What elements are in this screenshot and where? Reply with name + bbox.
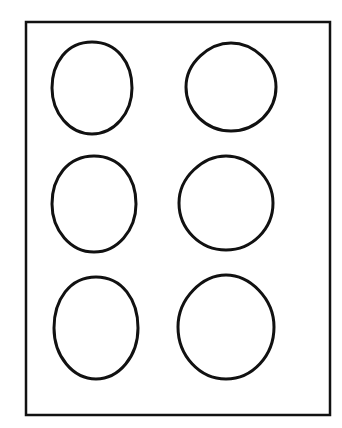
outer-frame	[26, 22, 330, 415]
oval-r2-c1	[52, 156, 136, 252]
oval-r1-c1	[52, 42, 132, 134]
oval-r3-c2	[178, 275, 274, 379]
oval-group	[52, 42, 276, 379]
diagram-canvas	[0, 0, 342, 428]
oval-r3-c1	[54, 277, 138, 379]
oval-r2-c2	[179, 156, 273, 250]
oval-r1-c2	[186, 43, 276, 131]
